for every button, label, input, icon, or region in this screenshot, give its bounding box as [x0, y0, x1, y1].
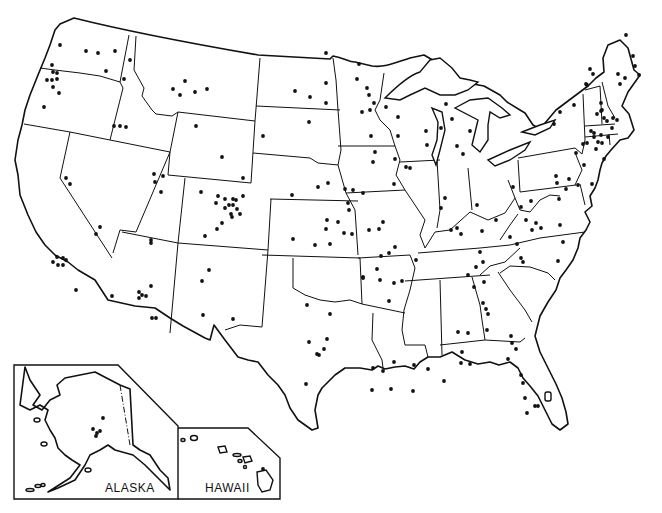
location-dot [466, 331, 470, 335]
location-dot [524, 218, 528, 222]
location-dot [387, 251, 391, 255]
location-dot [379, 254, 383, 258]
location-dot [371, 160, 375, 164]
location-dot [50, 78, 54, 82]
location-dot [633, 64, 637, 68]
location-dot [411, 389, 415, 393]
location-dot [128, 58, 132, 62]
border-oh-pa [518, 160, 520, 192]
location-dot [367, 228, 371, 232]
location-dot [150, 316, 154, 320]
location-dot [599, 109, 603, 113]
location-dot [599, 133, 603, 137]
location-dot [455, 144, 459, 148]
location-dot [51, 70, 55, 74]
location-dot [57, 91, 61, 95]
location-dot [137, 290, 141, 294]
border-tn-south [405, 275, 490, 281]
location-dot [346, 201, 350, 205]
border-il-in [437, 160, 440, 228]
location-dot [328, 312, 332, 316]
location-dot [368, 108, 372, 112]
location-dot [521, 260, 525, 264]
location-dot [322, 347, 326, 351]
location-dot [51, 85, 55, 89]
location-dot [201, 313, 205, 317]
alaska-outline [20, 367, 170, 492]
location-dot [371, 366, 375, 370]
location-dot [482, 280, 486, 284]
border-in-oh [468, 168, 472, 210]
location-dot [216, 194, 220, 198]
location-dot [215, 227, 219, 231]
border-nv-ut [110, 140, 170, 253]
border-ma-north [585, 124, 615, 126]
location-dot [481, 260, 485, 264]
location-dot [50, 63, 54, 67]
lake-superior [385, 58, 478, 100]
location-dot [149, 284, 153, 288]
location-dot [536, 404, 540, 408]
location-dot [525, 411, 529, 415]
border-pa-ny [518, 148, 582, 158]
location-dot [317, 353, 321, 357]
location-dot [521, 381, 525, 385]
border-az-nm [170, 243, 178, 333]
location-dot [389, 387, 393, 391]
location-dot [611, 116, 615, 120]
location-dot [519, 205, 523, 209]
border-nc-sc [500, 266, 555, 280]
aleutian-islands [26, 418, 91, 492]
location-dot [606, 135, 610, 139]
location-dot [377, 227, 381, 231]
location-dot [450, 117, 454, 121]
location-dot [393, 245, 397, 249]
location-dot [342, 231, 346, 235]
location-dot [510, 341, 514, 345]
location-dot [113, 49, 117, 53]
location-dot [375, 267, 379, 271]
location-dot [361, 191, 365, 195]
border-nd-mn [333, 58, 341, 165]
location-dot [508, 235, 512, 239]
location-dot [530, 228, 534, 232]
location-dot [585, 83, 589, 87]
border-id-wy [170, 112, 178, 152]
location-dot [152, 172, 156, 176]
location-dot [519, 373, 523, 377]
location-dot [199, 190, 203, 194]
location-dot [581, 142, 585, 146]
location-dot [595, 112, 599, 116]
border-mo-ar [358, 255, 415, 268]
location-dot [220, 155, 224, 159]
location-dot [596, 140, 600, 144]
location-dot [554, 174, 558, 178]
location-dot [347, 208, 351, 212]
location-dot [408, 166, 412, 170]
location-dot [459, 232, 463, 236]
border-ut-co [178, 178, 185, 243]
location-dot [124, 125, 128, 129]
location-dot [261, 134, 265, 138]
location-dot [98, 225, 102, 229]
location-dot [539, 226, 543, 230]
location-dot [336, 220, 340, 224]
location-dot [324, 81, 328, 85]
location-dot [624, 33, 628, 37]
location-dot [392, 281, 396, 285]
location-dot [313, 243, 317, 247]
location-dot [414, 258, 418, 262]
location-dot [442, 379, 446, 383]
map-svg [0, 0, 662, 513]
location-dot [378, 278, 382, 282]
location-dot [140, 293, 144, 297]
location-dot [149, 241, 153, 245]
location-dot [45, 78, 49, 82]
location-dot [637, 73, 641, 77]
location-dot [193, 90, 197, 94]
location-dot [455, 226, 459, 230]
lake-ontario [522, 120, 555, 135]
lake-michigan [432, 108, 445, 165]
location-dot [424, 129, 428, 133]
location-dot [494, 218, 498, 222]
